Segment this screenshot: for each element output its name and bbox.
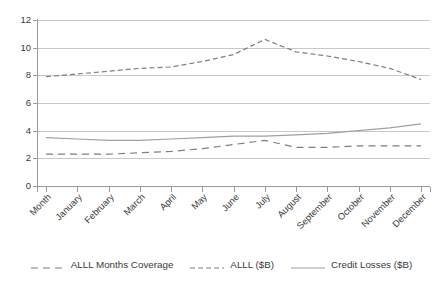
series-line-alll-months-coverage (46, 140, 421, 154)
legend-label: ALLL Months Coverage (71, 259, 174, 270)
legend-line-swatch (190, 259, 224, 269)
line-chart: 024681012 MonthJanuaryFebruaryMarchApril… (0, 0, 443, 281)
legend-label: Credit Losses ($B) (331, 259, 412, 270)
legend-line-swatch (31, 259, 65, 269)
legend-item[interactable]: ALLL Months Coverage (31, 259, 174, 270)
series-line-alll-b (46, 39, 421, 79)
legend-line-swatch (291, 259, 325, 269)
series-lines (0, 0, 443, 281)
legend-label: ALLL ($B) (230, 259, 274, 270)
legend-item[interactable]: ALLL ($B) (190, 259, 274, 270)
series-line-credit-losses-b (46, 124, 421, 141)
legend-item[interactable]: Credit Losses ($B) (291, 259, 412, 270)
chart-legend: ALLL Months CoverageALLL ($B)Credit Loss… (0, 256, 443, 272)
